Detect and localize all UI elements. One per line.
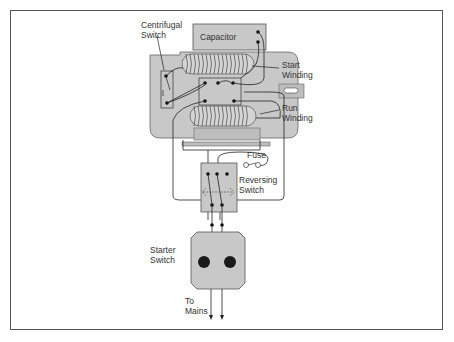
label-start-winding: Start Winding — [282, 60, 313, 80]
label-to-mains: To Mains — [185, 296, 208, 316]
motor-diagram — [0, 0, 454, 342]
start-winding-coil — [182, 54, 254, 74]
label-fuse: Fuse — [247, 150, 266, 160]
label-reversing-switch: Reversing Switch — [239, 175, 277, 195]
label-starter-switch: Starter Switch — [150, 245, 176, 265]
label-centrifugal-switch: Centrifugal Switch — [141, 20, 182, 40]
fuse — [244, 163, 261, 168]
label-run-winding: Run Winding — [282, 103, 313, 123]
run-winding-coil — [190, 106, 256, 126]
starter-button-2 — [224, 256, 236, 268]
label-capacitor: Capacitor — [200, 32, 236, 42]
starter-button-1 — [198, 256, 210, 268]
motor-base — [194, 128, 260, 140]
